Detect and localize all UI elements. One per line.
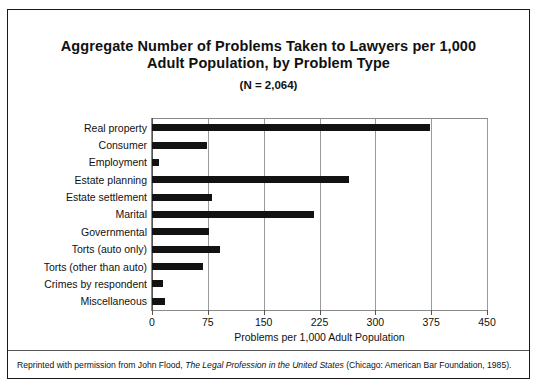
bar: [152, 228, 209, 235]
x-tick-label-300: 300: [367, 316, 385, 328]
y-axis-label: Estate settlement: [66, 192, 147, 202]
x-tick-label-375: 375: [422, 316, 440, 328]
x-axis-title: Problems per 1,000 Adult Population: [152, 331, 487, 343]
bar: [152, 280, 163, 287]
bar: [152, 124, 430, 131]
y-axis-label: Miscellaneous: [80, 296, 147, 306]
tick-450: [487, 310, 488, 315]
bar: [152, 263, 203, 270]
plot-area: Real propertyConsumerEmploymentEstate pl…: [151, 118, 488, 311]
bar: [152, 298, 165, 305]
caption-suffix: (Chicago: American Bar Foundation, 1985)…: [344, 360, 512, 370]
y-axis-label: Employment: [89, 157, 147, 167]
bar-row: Torts (other than auto): [152, 258, 487, 275]
bar-row: Torts (auto only): [152, 241, 487, 258]
bar: [152, 211, 314, 218]
caption-divider: [8, 350, 529, 351]
x-tick-label-0: 0: [149, 316, 155, 328]
figure-frame: Aggregate Number of Problems Taken to La…: [7, 9, 530, 379]
x-tick-label-75: 75: [202, 316, 214, 328]
tick-0: [152, 310, 153, 315]
x-tick-label-225: 225: [311, 316, 329, 328]
y-axis-label: Consumer: [99, 140, 147, 150]
y-axis-label: Torts (other than auto): [44, 262, 147, 272]
caption-prefix: Reprinted with permission from John Floo…: [17, 360, 185, 370]
bar-row: Real property: [152, 119, 487, 136]
y-axis-label: Marital: [115, 209, 147, 219]
bar: [152, 159, 159, 166]
tick-375: [431, 310, 432, 315]
bar: [152, 194, 212, 201]
bar-row: Marital: [152, 206, 487, 223]
y-axis-label: Crimes by respondent: [44, 279, 147, 289]
tick-150: [264, 310, 265, 315]
y-axis-label: Governmental: [81, 227, 147, 237]
bar: [152, 142, 207, 149]
bar: [152, 176, 349, 183]
y-axis-label: Real property: [84, 123, 147, 133]
y-axis-label: Torts (auto only): [72, 244, 147, 254]
bar-row: Consumer: [152, 136, 487, 153]
bar-row: Employment: [152, 154, 487, 171]
bar-row: Estate planning: [152, 171, 487, 188]
tick-225: [320, 310, 321, 315]
bar-row: Governmental: [152, 223, 487, 240]
bar-row: Estate settlement: [152, 188, 487, 205]
caption-title-italic: The Legal Profession in the United State…: [185, 360, 344, 370]
source-caption: Reprinted with permission from John Floo…: [17, 359, 520, 371]
tick-75: [208, 310, 209, 315]
tick-300: [375, 310, 376, 315]
bar-row: Miscellaneous: [152, 293, 487, 310]
x-tick-label-450: 450: [478, 316, 496, 328]
gridline-450: [487, 119, 488, 310]
x-tick-label-150: 150: [255, 316, 273, 328]
bar: [152, 246, 220, 253]
plot-wrapper: Real propertyConsumerEmploymentEstate pl…: [8, 10, 529, 378]
bar-row: Crimes by respondent: [152, 275, 487, 292]
y-axis-label: Estate planning: [75, 175, 147, 185]
